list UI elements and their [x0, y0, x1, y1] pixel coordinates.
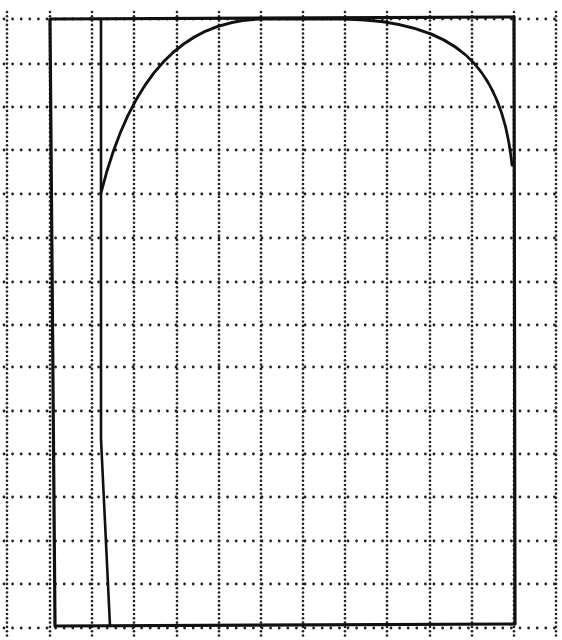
paper-background: [0, 0, 562, 640]
pattern-diagram: [0, 0, 562, 640]
